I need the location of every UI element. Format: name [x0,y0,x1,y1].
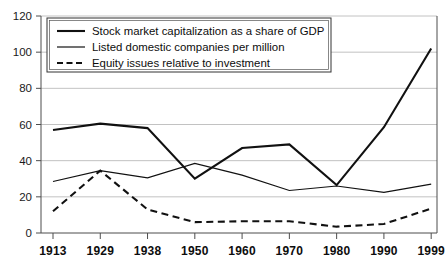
chart-canvas: 020406080100120 191319291938195019601970… [0,0,448,273]
y-tick-label: 60 [19,119,32,131]
data-series-group [53,49,431,227]
y-tick-label: 0 [26,227,32,239]
x-axis-ticks: 191319291938195019601970198019901999 [39,233,445,258]
y-tick-label: 80 [19,82,32,94]
y-tick-label: 40 [19,155,32,167]
x-tick-label-1990: 1990 [370,244,398,258]
y-tick-label: 20 [19,191,32,203]
chart-legend: Stock market capitalization as a share o… [47,18,331,72]
legend-label-2: Equity issues relative to investment [92,57,271,69]
x-tick-label-1950: 1950 [181,244,209,258]
legend-label-1: Listed domestic companies per million [92,41,284,53]
y-tick-label: 120 [13,10,32,22]
x-tick-label-1938: 1938 [134,244,162,258]
x-tick-label-1960: 1960 [228,244,256,258]
x-tick-label-1980: 1980 [323,244,351,258]
y-tick-label: 100 [13,46,32,58]
x-tick-label-1970: 1970 [276,244,304,258]
legend-label-0: Stock market capitalization as a share o… [92,25,324,37]
x-tick-label-1913: 1913 [39,244,67,258]
y-axis-ticks: 020406080100120 [13,10,41,239]
x-tick-label-1999: 1999 [417,244,445,258]
series-line-2 [53,171,431,227]
line-chart: 020406080100120 191319291938195019601970… [0,0,448,273]
x-tick-label-1929: 1929 [87,244,115,258]
